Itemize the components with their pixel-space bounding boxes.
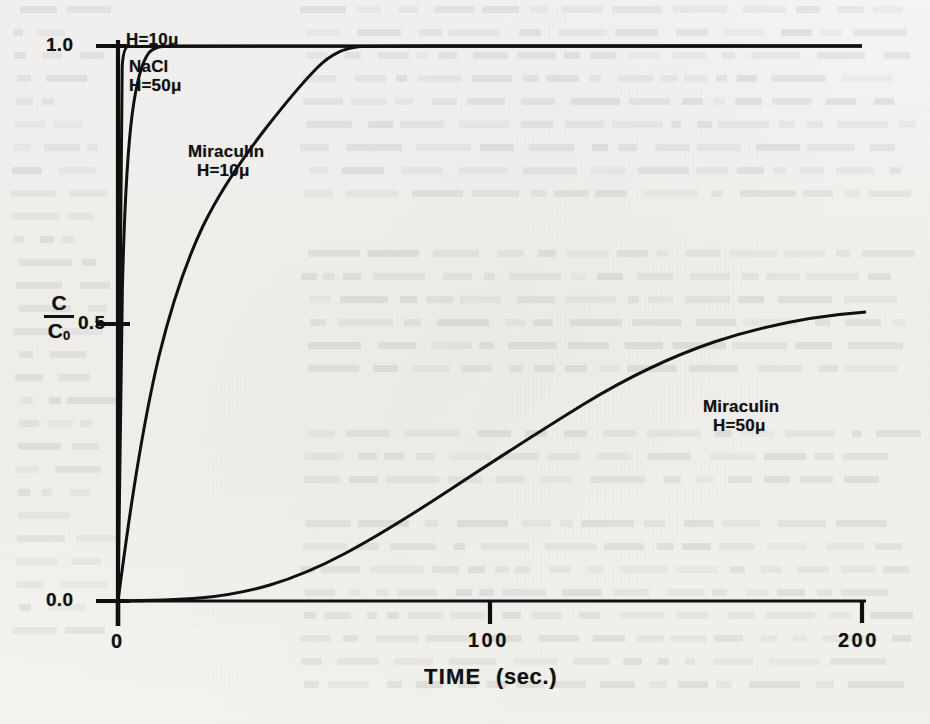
curve-miraculin-h50-visible (118, 312, 866, 601)
curve-label-miraculin-h10: Miraculin H=10μ (188, 142, 264, 180)
curve-nacl-h50 (118, 46, 862, 601)
x-axis-title-unit: (sec.) (496, 664, 557, 689)
y-tick-label-0.5: 0.5 (78, 312, 105, 334)
figure-container: C C0 1.0 0.5 0.0 0 100 200 TIME (sec.) H… (0, 0, 930, 724)
curve-label-miraculin-h10-line1: Miraculin (188, 142, 264, 161)
curve-label-miraculin-h50-line1: Miraculin (703, 397, 779, 416)
x-axis-ticks (118, 601, 490, 626)
curve-label-miraculin-h50-line2: H=50μ (713, 416, 766, 435)
x-tick-label-0: 0 (111, 630, 125, 653)
x-tick-label-200: 200 (838, 629, 879, 652)
y-axis-title-fraction-bar (44, 315, 74, 318)
curve-label-nacl-h50: NaCl H=50μ (129, 57, 182, 95)
chart-plot-area (0, 0, 930, 724)
y-axis-title-numerator: C (42, 292, 76, 314)
y-axis-title-denominator-subscript: 0 (63, 328, 70, 343)
x-tick-label-100: 100 (468, 629, 509, 652)
y-tick-label-0.0: 0.0 (46, 589, 73, 611)
curve-label-miraculin-h10-line2: H=10μ (197, 161, 250, 180)
curve-label-miraculin-h50: Miraculin H=50μ (703, 397, 779, 435)
y-axis-title: C C0 (42, 292, 76, 341)
curve-h10 (118, 46, 862, 601)
y-axis-title-denominator: C (48, 319, 63, 342)
curve-label-h10-line1: H=10μ (126, 30, 179, 49)
curve-label-nacl-line2: H=50μ (129, 76, 182, 95)
y-tick-label-1.0: 1.0 (46, 34, 73, 56)
x-axis-title: TIME (sec.) (424, 664, 557, 690)
curve-miraculin-h10 (118, 46, 862, 601)
x-axis-title-text: TIME (424, 664, 481, 689)
curve-label-h10: H=10μ (126, 30, 179, 49)
curve-label-nacl-line1: NaCl (129, 57, 169, 76)
